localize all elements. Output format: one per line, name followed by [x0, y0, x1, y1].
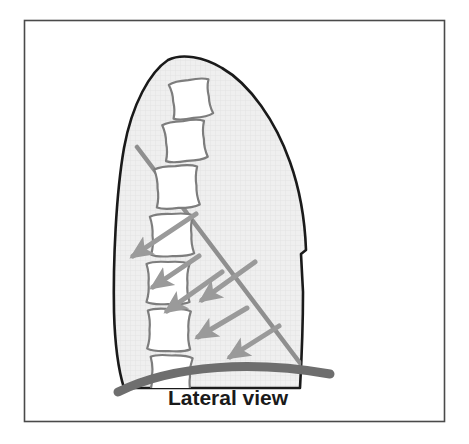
vertebra-6 [147, 308, 191, 351]
vertebra-3 [154, 164, 200, 209]
caption-lateral-view: Lateral view [168, 386, 289, 409]
anatomy-illustration: Lateral view [0, 0, 469, 444]
vertebra-1 [169, 77, 214, 121]
vertebra-2 [162, 119, 208, 164]
figure-root: Lateral view [0, 0, 469, 444]
